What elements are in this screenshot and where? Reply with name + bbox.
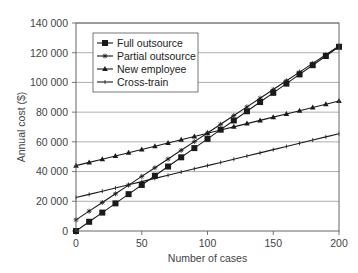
square-marker-icon	[191, 145, 197, 151]
square-marker-icon	[231, 117, 237, 123]
star-marker-icon	[297, 70, 302, 75]
star-marker-icon	[100, 200, 105, 205]
y-tick-label: 140 000	[30, 17, 68, 29]
star-marker-icon	[139, 174, 144, 179]
x-axis-title: Number of cases	[168, 252, 247, 264]
y-axis-ticks: 020 00040 00060 00080 000100 000120 0001…	[30, 17, 76, 237]
legend-label: Full outsource	[117, 37, 183, 49]
star-marker-icon	[258, 96, 263, 101]
legend-label: New employee	[117, 63, 187, 75]
legend-label: Cross-train	[117, 76, 169, 88]
square-marker-icon	[102, 40, 108, 46]
y-tick-label: 60 000	[36, 136, 68, 148]
y-axis-title: Annual cost ($)	[15, 92, 27, 163]
y-tick-label: 120 000	[30, 47, 68, 59]
star-marker-icon	[179, 148, 184, 153]
x-tick-label: 50	[136, 237, 148, 249]
star-marker-icon	[166, 157, 171, 162]
star-marker-icon	[87, 209, 92, 214]
star-marker-icon	[323, 52, 328, 57]
x-axis-ticks: 050100150200	[73, 231, 348, 249]
star-marker-icon	[218, 122, 223, 127]
square-marker-icon	[178, 154, 184, 160]
x-tick-label: 0	[73, 237, 79, 249]
legend: Full outsourcePartial outsourceNew emplo…	[93, 33, 198, 92]
star-marker-icon	[231, 113, 236, 118]
square-marker-icon	[165, 164, 171, 170]
star-marker-icon	[152, 165, 157, 170]
y-tick-label: 20 000	[36, 195, 68, 207]
square-marker-icon	[126, 191, 132, 197]
x-tick-label: 200	[330, 237, 348, 249]
y-tick-label: 80 000	[36, 106, 68, 118]
line-chart: 020 00040 00060 00080 000100 000120 0001…	[0, 0, 358, 273]
y-tick-label: 0	[62, 225, 68, 237]
square-marker-icon	[205, 136, 211, 142]
star-marker-icon	[103, 54, 108, 59]
x-tick-label: 100	[199, 237, 217, 249]
square-marker-icon	[86, 219, 92, 225]
x-tick-label: 150	[264, 237, 282, 249]
star-marker-icon	[244, 104, 249, 109]
square-marker-icon	[99, 210, 105, 216]
y-tick-label: 100 000	[30, 76, 68, 88]
star-marker-icon	[271, 87, 276, 92]
star-marker-icon	[284, 78, 289, 83]
series-new-employee	[73, 98, 342, 168]
square-marker-icon	[112, 200, 118, 206]
star-marker-icon	[113, 191, 118, 196]
legend-label: Partial outsource	[117, 50, 196, 62]
star-marker-icon	[192, 139, 197, 144]
star-marker-icon	[310, 61, 315, 66]
y-tick-label: 40 000	[36, 165, 68, 177]
